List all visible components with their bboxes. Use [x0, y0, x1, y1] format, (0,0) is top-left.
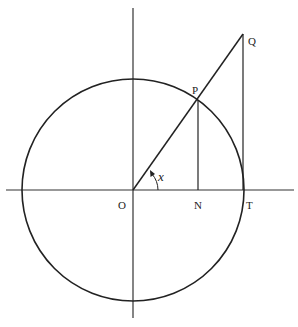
unit-circle-diagram: O N T P Q x — [0, 0, 298, 327]
label-angle-x: x — [157, 169, 164, 184]
angle-arrow-icon — [150, 170, 155, 177]
label-N: N — [194, 199, 202, 211]
label-Q: Q — [248, 35, 256, 47]
label-P: P — [192, 84, 198, 96]
label-O: O — [118, 199, 126, 211]
line-OQ — [133, 34, 243, 190]
label-T: T — [246, 199, 253, 211]
